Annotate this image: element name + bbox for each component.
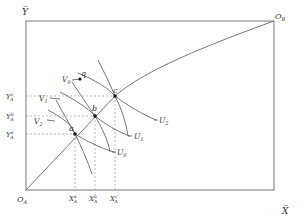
v0-label: V0	[62, 75, 71, 85]
x-tick-c: XcA	[109, 194, 119, 204]
v1-leader	[50, 98, 60, 99]
u1-label: U1	[134, 132, 144, 142]
u2-label: U2	[159, 116, 169, 126]
v2-leader	[47, 120, 55, 121]
v1-label: V1	[39, 94, 48, 104]
point-c-label: c	[113, 86, 118, 95]
indifference-curve-u2	[78, 73, 156, 120]
point-q-label: q	[81, 69, 86, 78]
y-tick-c: YcA	[6, 92, 14, 102]
edgeworth-box-diagram: Y̅ X̅ OA OB a b c q V2 V1 V0 U0 U1 U2 Yc…	[0, 0, 308, 217]
origin-a-label: OA	[17, 195, 28, 205]
x-tick-b: XbA	[88, 194, 98, 204]
y-tick-b: YbA	[6, 112, 15, 122]
y-tick-a: YaA	[6, 130, 14, 140]
indifference-curve-v2	[56, 100, 92, 174]
indifference-curve-v1	[72, 82, 110, 152]
x-bar-label: X̅	[281, 205, 289, 216]
point-b-label: b	[92, 104, 97, 113]
u0-label: U0	[117, 148, 127, 158]
x-tick-a: XaA	[68, 194, 78, 204]
point-a-label: a	[69, 124, 74, 133]
point-b	[93, 114, 97, 118]
v2-label: V2	[34, 117, 43, 127]
origin-b-label: OB	[275, 12, 286, 22]
contract-curve	[26, 21, 274, 190]
edgeworth-box-frame	[26, 21, 274, 190]
y-bar-label: Y̅	[22, 6, 29, 17]
